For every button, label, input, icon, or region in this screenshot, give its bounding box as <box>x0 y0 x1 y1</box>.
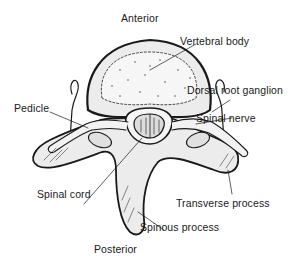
vertebra-diagram: Anterior Vertebral body Dorsal root gang… <box>0 0 298 256</box>
label-transverse-process: Transverse process <box>176 198 270 209</box>
label-pedicle: Pedicle <box>14 103 49 114</box>
label-posterior: Posterior <box>94 244 137 255</box>
vertebra-illustration <box>0 0 298 256</box>
label-spinous-process: Spinous process <box>140 222 219 233</box>
label-spinal-nerve: Spinal nerve <box>196 113 256 124</box>
label-spinal-cord: Spinal cord <box>37 189 91 200</box>
label-anterior: Anterior <box>121 13 159 24</box>
leader-pedicle <box>50 112 88 128</box>
spinal-cord-shape <box>134 114 164 138</box>
leader-transverse-process <box>228 170 232 194</box>
label-dorsal-root-ganglion: Dorsal root ganglion <box>187 85 283 96</box>
label-vertebral-body: Vertebral body <box>180 36 249 47</box>
